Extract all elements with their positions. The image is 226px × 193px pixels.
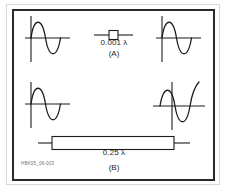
figure-container: 0.001 λ (A) 0.25 λ (B) HBK05_06-003	[0, 0, 226, 193]
waveform-b-output	[153, 82, 205, 130]
section-a-label: (A)	[74, 49, 154, 58]
waveform-b-input	[25, 82, 70, 128]
section-b-label: (B)	[74, 163, 154, 172]
waveform-b-output-sine-curve	[160, 82, 199, 122]
section-b-length-label: 0.25 λ	[74, 148, 154, 157]
waveform-a-output	[156, 16, 201, 62]
waveform-a-input	[25, 16, 70, 62]
section-a-length-label: 0.001 λ	[74, 38, 154, 47]
figure-id-label: HBK05_06-003	[21, 161, 54, 166]
